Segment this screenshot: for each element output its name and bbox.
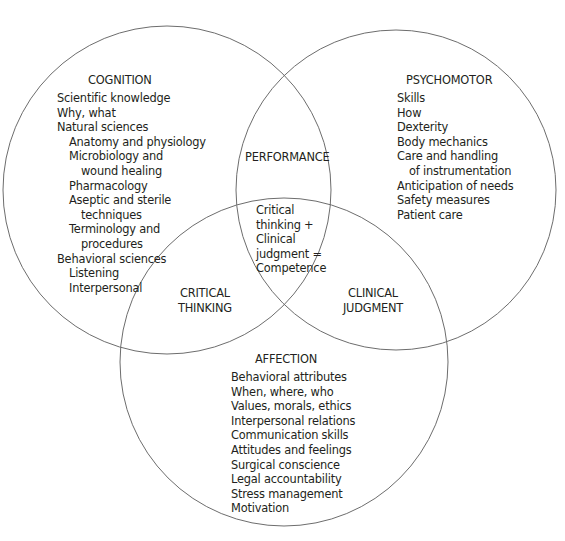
critical-thinking-line: CRITICAL <box>170 286 240 301</box>
cognition-item: Aseptic and sterile <box>57 193 206 208</box>
psychomotor-item: Skills <box>397 91 514 106</box>
psychomotor-item: Body mechanics <box>397 135 514 150</box>
cognition-item: Microbiology and <box>57 149 206 164</box>
cognition-list: Scientific knowledgeWhy, whatNatural sci… <box>57 91 206 295</box>
affection-item: Interpersonal relations <box>231 414 355 429</box>
competence-line: judgment = <box>256 247 326 262</box>
cognition-item: Anatomy and physiology <box>57 135 206 150</box>
critical-thinking-label: CRITICAL THINKING <box>170 286 240 315</box>
psychomotor-list: SkillsHowDexterityBody mechanicsCare and… <box>397 91 514 222</box>
affection-item: Attitudes and feelings <box>231 443 355 458</box>
psychomotor-item: Care and handling <box>397 149 514 164</box>
cognition-item: techniques <box>57 208 206 223</box>
psychomotor-item: of instrumentation <box>397 164 514 179</box>
affection-list: Behavioral attributesWhen, where, whoVal… <box>231 370 355 516</box>
clinical-judgment-label: CLINICAL JUDGMENT <box>335 286 411 315</box>
cognition-item: Behavioral sciences <box>57 252 206 267</box>
cognition-item: Why, what <box>57 106 206 121</box>
affection-item: Surgical conscience <box>231 458 355 473</box>
psychomotor-item: How <box>397 106 514 121</box>
affection-title: AFFECTION <box>255 352 317 367</box>
cognition-title: COGNITION <box>88 73 152 88</box>
clinical-judgment-line: CLINICAL <box>335 286 411 301</box>
critical-thinking-line: THINKING <box>170 301 240 316</box>
competence-line: Critical <box>256 203 326 218</box>
affection-item: Behavioral attributes <box>231 370 355 385</box>
affection-item: Legal accountability <box>231 472 355 487</box>
cognition-item: Listening <box>57 266 206 281</box>
cognition-item: Scientific knowledge <box>57 91 206 106</box>
affection-item: Motivation <box>231 501 355 516</box>
competence-line: Competence <box>256 261 326 276</box>
cognition-item: Pharmacology <box>57 179 206 194</box>
affection-item: Stress management <box>231 487 355 502</box>
psychomotor-item: Dexterity <box>397 120 514 135</box>
psychomotor-item: Anticipation of needs <box>397 179 514 194</box>
psychomotor-item: Safety measures <box>397 193 514 208</box>
cognition-item: wound healing <box>57 164 206 179</box>
cognition-item: Terminology and <box>57 222 206 237</box>
affection-item: When, where, who <box>231 385 355 400</box>
psychomotor-title: PSYCHOMOTOR <box>406 73 492 88</box>
competence-line: Clinical <box>256 232 326 247</box>
psychomotor-item: Patient care <box>397 208 514 223</box>
affection-item: Values, morals, ethics <box>231 399 355 414</box>
cognition-item: Natural sciences <box>57 120 206 135</box>
performance-label: PERFORMANCE <box>245 150 330 165</box>
clinical-judgment-line: JUDGMENT <box>335 301 411 316</box>
competence-label: Critical thinking + Clinical judgment = … <box>256 203 326 276</box>
cognition-item: procedures <box>57 237 206 252</box>
affection-item: Communication skills <box>231 428 355 443</box>
competence-line: thinking + <box>256 218 326 233</box>
